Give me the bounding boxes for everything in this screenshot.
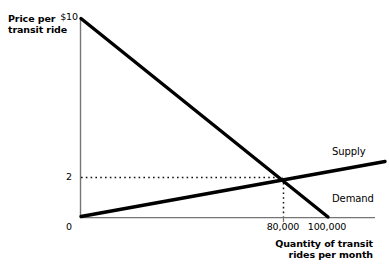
supply-demand-chart: Price pertransit ride $10 2 0 80,000 100…: [0, 0, 389, 276]
origin-label: 0: [54, 221, 72, 232]
y-axis-title-line-2: transit ride: [8, 24, 67, 35]
y-tick-label-10: $10: [52, 11, 78, 22]
supply-curve-label: Supply: [332, 146, 365, 158]
demand-curve: [81, 19, 328, 218]
y-axis-title-line-1: Price per: [8, 13, 55, 24]
y-tick-label-2: 2: [52, 171, 72, 182]
chart-plot-area: [0, 0, 389, 276]
supply-curve: [81, 162, 385, 217]
demand-curve-label: Demand: [332, 193, 374, 205]
x-axis-title-line-1: Quantity of transit: [275, 238, 373, 249]
x-tick-label-100000: 100,000: [294, 221, 360, 232]
x-axis-title-line-2: rides per month: [289, 249, 373, 260]
x-axis-title: Quantity of transitrides per month: [225, 238, 373, 260]
